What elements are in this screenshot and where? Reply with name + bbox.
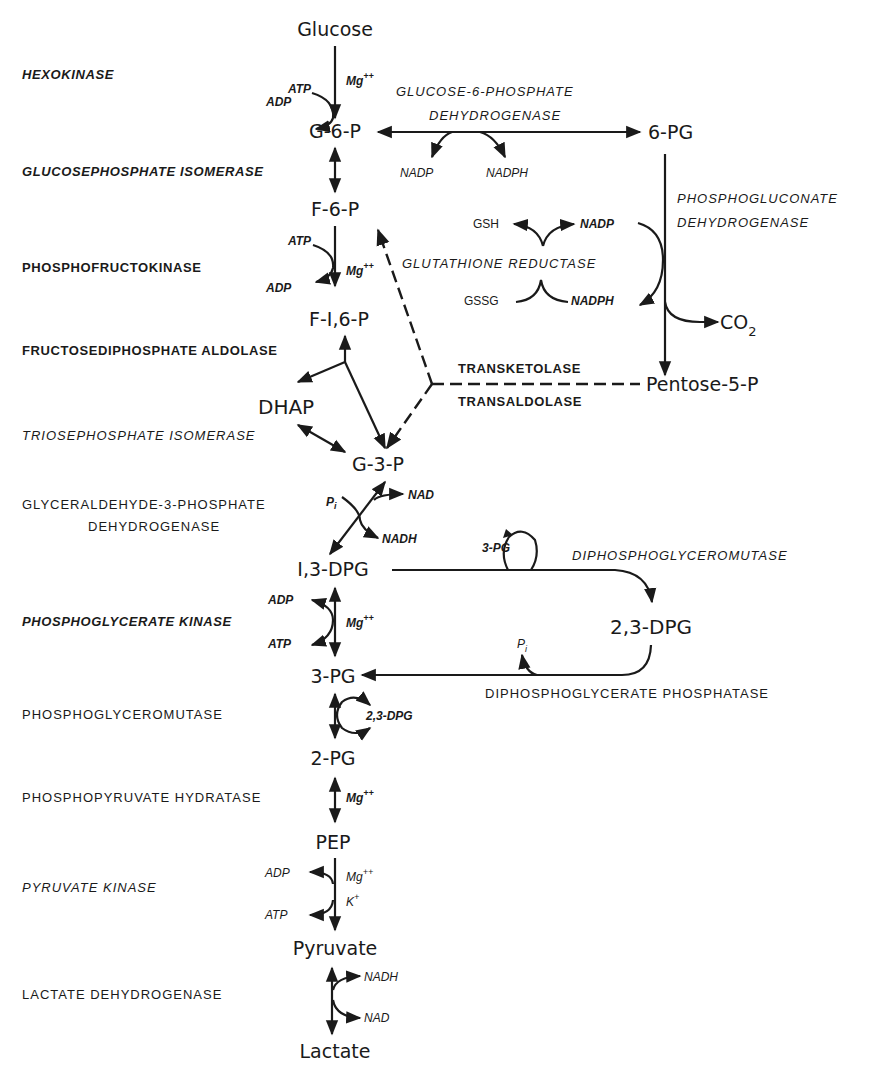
cofactor-pi: Pi (326, 495, 337, 511)
metabolite-f16p: F-I,6-P (309, 308, 369, 330)
metabolite-pentose-5p: Pentose-5-P (646, 373, 758, 395)
cofactor-adp: ADP (265, 95, 292, 109)
cofactor-nadp: NADP (580, 217, 615, 231)
cofactor-3pg: 3-PG (482, 541, 510, 555)
pfk-cofactor-arc (313, 245, 333, 282)
dashed-arrow-to-f6p (378, 230, 432, 384)
enzyme-diphosphoglyceromutase: DIPHOSPHOGLYCEROMUTASE (572, 548, 788, 563)
cofactor-nadp: NADP (400, 166, 433, 180)
cofactor-nadh: NADH (364, 970, 398, 984)
g6pd-nadp-arc (432, 132, 452, 157)
cofactor-nadph: NADPH (486, 166, 528, 180)
cofactor-23dpg: 2,3-DPG (365, 709, 413, 723)
cofactor-nad: NAD (408, 488, 434, 502)
enzyme-transketolase: TRANSKETOLASE (458, 361, 581, 376)
arrow-13dpg-to-23dpg (392, 570, 652, 602)
metabolite-2pg: 2-PG (310, 747, 355, 769)
enzyme-pgd-line1: PHOSPHOGLUCONATE (677, 191, 838, 206)
cofactor-atp: ATP (287, 82, 312, 96)
ldh-nad-arc (333, 1000, 360, 1018)
gr-gsh-arc (514, 224, 543, 246)
pk-adp-arc (310, 872, 333, 884)
ldh-nadh-arc (333, 976, 360, 990)
enzyme-transaldolase: TRANSALDOLASE (458, 394, 582, 409)
cofactor-nad: NAD (364, 1011, 390, 1025)
metabolite-glucose: Glucose (297, 18, 373, 40)
cofactor-atp: ATP (264, 908, 287, 922)
enzyme-hexokinase: HEXOKINASE (22, 67, 114, 82)
cofactor-atp: ATP (267, 637, 292, 651)
metabolite-co2: CO2 (720, 311, 757, 339)
dashed-arrow-to-g3p (387, 384, 432, 448)
metabolite-13dpg: I,3-DPG (297, 558, 368, 580)
arrow-aldolase-to-g3p (345, 362, 385, 448)
enzyme-lactate-dehydrogenase: LACTATE DEHYDROGENASE (22, 987, 222, 1002)
metabolite-g6p: G-6-P (309, 120, 361, 142)
enzyme-g6pd-line2: DEHYDROGENASE (429, 108, 561, 123)
pgd-nadp-nadph-arc (638, 223, 663, 305)
enzyme-gapdh-line1: GLYCERALDEHYDE-3-PHOSPHATE (22, 497, 266, 512)
cofactor-gsh: GSH (473, 217, 499, 231)
enzyme-diphosphoglycerate-phosphatase: DIPHOSPHOGLYCERATE PHOSPHATASE (485, 686, 769, 701)
enzyme-phosphopyruvate-hydratase: PHOSPHOPYRUVATE HYDRATASE (22, 790, 261, 805)
enzyme-phosphoglyceromutase: PHOSPHOGLYCEROMUTASE (22, 707, 223, 722)
metabolite-3pg: 3-PG (310, 665, 355, 687)
metabolite-dhap: DHAP (258, 395, 314, 419)
metabolite-pep: PEP (316, 831, 351, 853)
gr-nadp-arc (543, 224, 574, 246)
pk-atp-arc (310, 900, 333, 915)
cofactor-mg: Mg++ (346, 261, 375, 278)
cofactor-mg: Mg++ (346, 613, 375, 630)
cofactor-nadh: NADH (382, 532, 417, 546)
arrow-23dpg-to-3pg (362, 645, 651, 675)
cofactor-atp: ATP (287, 234, 312, 248)
metabolite-g3p: G-3-P (352, 453, 404, 475)
metabolite-23dpg: 2,3-DPG (610, 615, 692, 639)
metabolite-pyruvate: Pyruvate (293, 937, 378, 959)
enzyme-glutathione-reductase: GLUTATHIONE REDUCTASE (402, 256, 596, 271)
cofactor-adp: ADP (265, 281, 292, 295)
enzyme-g6pd-line1: GLUCOSE-6-PHOSPHATE (396, 84, 574, 99)
enzyme-phosphoglycerate-kinase: PHOSPHOGLYCERATE KINASE (22, 614, 232, 629)
gr-gssg-nadph-arc (516, 280, 568, 302)
enzyme-phosphofructokinase: PHOSPHOFRUCTOKINASE (22, 260, 201, 275)
enzyme-triosephosphate-isomerase: TRIOSEPHOSPHATE ISOMERASE (22, 428, 256, 443)
enzyme-fructosediphosphate-aldolase: FRUCTOSEDIPHOSPHATE ALDOLASE (22, 343, 278, 358)
glycolysis-pathway-diagram: Glucose ATP ADP Mg++ HEXOKINASE G-6-P GL… (0, 0, 878, 1077)
cofactor-mg: Mg++ (346, 867, 373, 884)
g6pd-nadph-arc (480, 132, 505, 157)
cofactor-mg: Mg++ (346, 788, 375, 805)
cofactor-pi: Pi (517, 637, 528, 654)
pgd-co2-arc (665, 302, 718, 322)
metabolite-6pg: 6-PG (648, 121, 693, 143)
cofactor-gssg: GSSG (464, 294, 499, 308)
arrow-g3p-13dpg (330, 482, 385, 554)
cofactor-nadph: NADPH (571, 294, 614, 308)
arrow-aldolase-to-dhap (298, 362, 345, 382)
cofactor-adp: ADP (267, 593, 294, 607)
gapdh-nad-arc (374, 494, 403, 500)
cofactor-adp: ADP (264, 866, 290, 880)
metabolite-lactate: Lactate (300, 1040, 371, 1062)
dpgp-pi-arc (522, 655, 537, 675)
metabolite-f6p: F-6-P (311, 198, 359, 220)
cofactor-k: K+ (346, 892, 359, 909)
enzyme-pgd-line2: DEHYDROGENASE (677, 215, 809, 230)
cofactor-mg: Mg++ (346, 71, 375, 88)
enzyme-pyruvate-kinase: PYRUVATE KINASE (22, 880, 157, 895)
arrow-dhap-g3p (298, 425, 345, 452)
enzyme-gapdh-line2: DEHYDROGENASE (88, 519, 220, 534)
enzyme-glucosephosphate-isomerase: GLUCOSEPHOSPHATE ISOMERASE (22, 164, 263, 179)
pgk-cofactor-arc (312, 600, 333, 645)
